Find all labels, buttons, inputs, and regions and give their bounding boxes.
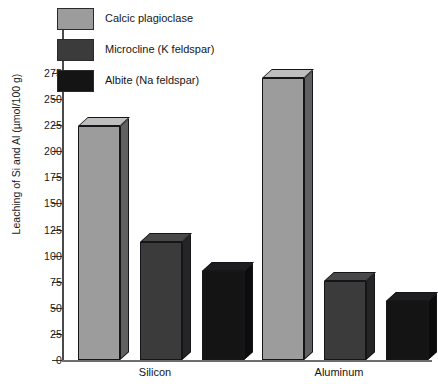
bar-aluminum-albite-na-feldspar <box>386 301 428 360</box>
y-tick-label: 275 <box>16 67 62 79</box>
y-tick-label: 50 <box>16 302 62 314</box>
bar-side-face <box>304 70 313 360</box>
bar-front-face <box>386 301 428 360</box>
y-tick: 25 <box>0 334 62 335</box>
legend-swatch-microcline <box>57 39 94 61</box>
y-tick: 200 <box>0 151 62 152</box>
bar-side-face <box>244 263 253 360</box>
y-tick: 100 <box>0 256 62 257</box>
y-tick-label: 125 <box>16 224 62 236</box>
bar-side-face <box>182 234 191 360</box>
bar-front-face <box>324 281 366 360</box>
bar-front-face <box>202 271 244 360</box>
bar-front-face <box>140 242 182 360</box>
bar-front-face <box>262 78 304 360</box>
y-tick: 125 <box>0 230 62 231</box>
bar-aluminum-calcic-plagioclase <box>262 78 304 360</box>
bar-side-face <box>428 292 437 360</box>
y-tick-label: 25 <box>16 328 62 340</box>
y-tick: 150 <box>0 203 62 204</box>
bar-front-face <box>78 126 120 360</box>
bar-silicon-microcline-k-feldspar <box>140 242 182 360</box>
x-axis-line <box>62 360 432 362</box>
legend-label-calcic-plagioclase: Calcic plagioclase <box>105 12 193 24</box>
y-tick-label: 175 <box>16 171 62 183</box>
x-axis-label-aluminum: Aluminum <box>315 366 364 378</box>
y-tick-label: 225 <box>16 119 62 131</box>
bar-side-face <box>120 118 129 360</box>
y-tick: 225 <box>0 125 62 126</box>
y-tick-label: 200 <box>16 145 62 157</box>
y-tick: 275 <box>0 73 62 74</box>
x-axis-label-silicon: Silicon <box>139 366 171 378</box>
y-axis-line <box>62 14 64 362</box>
bar-silicon-calcic-plagioclase <box>78 126 120 360</box>
y-tick-label: 75 <box>16 276 62 288</box>
bar-silicon-albite-na-feldspar <box>202 271 244 360</box>
y-tick-label: 150 <box>16 197 62 209</box>
y-tick: 0 <box>0 360 62 361</box>
y-tick: 250 <box>0 99 62 100</box>
legend-label-albite: Albite (Na feldspar) <box>105 74 199 86</box>
bar-aluminum-microcline-k-feldspar <box>324 281 366 360</box>
y-tick: 75 <box>0 282 62 283</box>
y-tick-label: 0 <box>16 354 62 366</box>
bar-side-face <box>366 273 375 360</box>
legend-label-microcline: Microcline (K feldspar) <box>105 43 214 55</box>
y-tick-label: 250 <box>16 93 62 105</box>
y-tick: 50 <box>0 308 62 309</box>
y-tick-label: 100 <box>16 250 62 262</box>
legend-swatch-calcic-plagioclase <box>57 8 94 30</box>
y-tick: 175 <box>0 177 62 178</box>
legend-swatch-albite <box>57 70 94 92</box>
